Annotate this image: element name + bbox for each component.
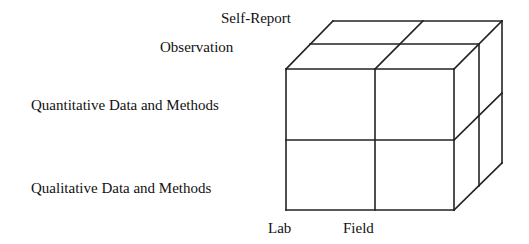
cube-front-face <box>286 69 454 210</box>
cube-top-face <box>286 21 502 69</box>
cube-diagram <box>0 0 529 244</box>
cube-right-face <box>454 21 502 210</box>
